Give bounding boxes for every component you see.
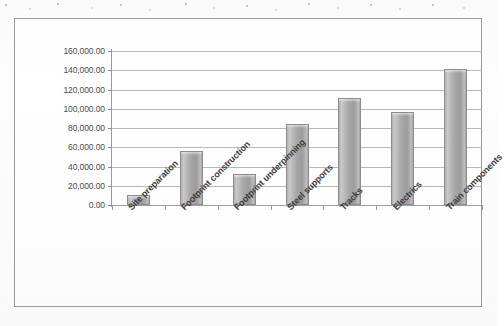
y-tick-label: 160,000.00	[21, 46, 105, 56]
scan-noise-artifacts	[0, 0, 497, 14]
bar-chart: 0.0020,000.0040,000.0060,000.0080,000.00…	[14, 18, 482, 307]
y-tick-label: 120,000.00	[21, 85, 105, 95]
x-axis-category-labels: Site preparationFootprint constructionFo…	[15, 205, 483, 306]
y-tick-label: 140,000.00	[21, 65, 105, 75]
y-tick-label: 20,000.00	[21, 181, 105, 191]
bars-layer	[112, 51, 482, 205]
y-tick-label: 80,000.00	[21, 123, 105, 133]
y-tick-label: 40,000.00	[21, 162, 105, 172]
y-tick-label: 100,000.00	[21, 104, 105, 114]
y-tick-label: 60,000.00	[21, 142, 105, 152]
